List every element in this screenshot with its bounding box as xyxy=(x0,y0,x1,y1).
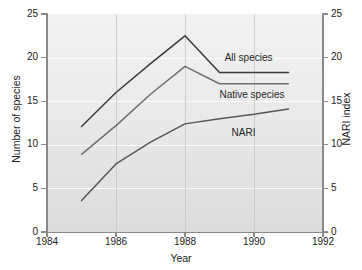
chart-figure: 0055101015152020252519841986198819901992… xyxy=(0,0,362,270)
series-label-nari: NARI xyxy=(232,127,256,138)
series-lines xyxy=(0,0,362,270)
series-line xyxy=(82,109,289,201)
series-line xyxy=(82,66,289,154)
y-axis-title-left: Number of species xyxy=(10,49,22,189)
series-line xyxy=(82,36,289,127)
series-label-all_species: All species xyxy=(225,52,273,63)
series-label-native_species: Native species xyxy=(220,89,285,100)
x-axis-title: Year xyxy=(0,252,362,264)
y-axis-title-right: NARI index xyxy=(340,49,352,189)
